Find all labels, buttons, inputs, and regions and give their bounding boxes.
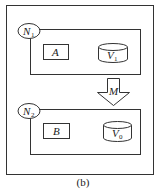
process-b-label: B bbox=[53, 125, 60, 137]
database-v1-subscript: 1 bbox=[114, 55, 118, 63]
transition-arrow: M bbox=[98, 79, 130, 106]
process-a-label: A bbox=[51, 46, 59, 58]
diagram: N 1 A V 1 M N 2 B V 0 (b) bbox=[0, 0, 157, 189]
database-v0-subscript: 0 bbox=[119, 133, 123, 141]
node-n1-subscript: 1 bbox=[31, 31, 35, 39]
node-n1-label: N bbox=[22, 25, 31, 37]
node-n2-subscript: 2 bbox=[31, 111, 35, 119]
figure-caption: (b) bbox=[77, 176, 90, 189]
node-n2: N 2 B V 0 bbox=[18, 104, 141, 155]
node-n1: N 1 A V 1 bbox=[18, 24, 141, 75]
transition-arrow-label: M bbox=[108, 85, 119, 97]
node-n2-label: N bbox=[22, 105, 31, 117]
